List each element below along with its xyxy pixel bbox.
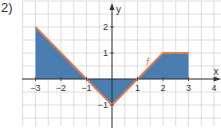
x-tick-label: 4 bbox=[211, 83, 216, 93]
x-axis-arrow-icon bbox=[214, 77, 221, 82]
x-tick-label: −2 bbox=[56, 83, 66, 93]
x-axis-label: x bbox=[214, 66, 219, 77]
function-graph: −3−2−11234−112xyf bbox=[0, 0, 221, 130]
x-tick-label: 2 bbox=[160, 83, 165, 93]
y-tick-label: 1 bbox=[103, 48, 108, 58]
x-tick-label: −1 bbox=[81, 83, 91, 93]
y-tick-label: −1 bbox=[98, 100, 108, 110]
y-axis-arrow-icon bbox=[110, 3, 115, 10]
x-tick-label: 3 bbox=[186, 83, 191, 93]
y-tick-label: 2 bbox=[103, 22, 108, 32]
x-tick-label: 1 bbox=[135, 83, 140, 93]
x-tick-label: −3 bbox=[30, 83, 40, 93]
y-axis-label: y bbox=[116, 4, 121, 15]
